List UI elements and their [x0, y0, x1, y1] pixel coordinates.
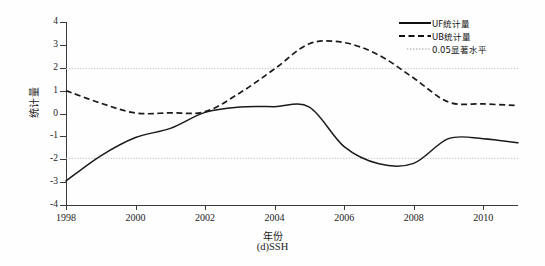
- x-axis-line: [66, 205, 518, 206]
- figure-caption: (d)SSH: [0, 241, 545, 252]
- legend-label-significance: 0.05显著水平: [432, 43, 487, 55]
- legend-item-significance: 0.05显著水平: [398, 43, 538, 55]
- y-tick-label: 3: [32, 40, 58, 50]
- x-tick-label: 2006: [321, 212, 367, 223]
- legend-swatch-solid-icon: [398, 18, 432, 28]
- x-tick-label: 1998: [43, 212, 89, 223]
- x-tick-label: 2002: [182, 212, 228, 223]
- x-tick: [414, 205, 415, 210]
- x-tick: [275, 205, 276, 210]
- legend-swatch-dashed-icon: [398, 31, 432, 41]
- y-tick-label: -2: [32, 154, 58, 164]
- legend-swatch-dotted-icon: [398, 44, 432, 54]
- x-tick-label: 2004: [252, 212, 298, 223]
- chart-legend: UF统计量 UB统计量 0.05显著水平: [398, 17, 538, 56]
- chart-figure: -4-3-2-101234 19982000200220042006200820…: [0, 0, 545, 266]
- x-tick-label: 2008: [391, 212, 437, 223]
- x-tick-label: 2000: [113, 212, 159, 223]
- legend-label-ub: UB统计量: [432, 30, 471, 42]
- x-tick: [205, 205, 206, 210]
- legend-item-ub: UB统计量: [398, 30, 538, 42]
- y-tick-label: -3: [32, 177, 58, 187]
- x-tick: [66, 205, 67, 210]
- legend-item-uf: UF统计量: [398, 17, 538, 29]
- x-tick: [483, 205, 484, 210]
- x-tick-label: 2010: [460, 212, 506, 223]
- legend-label-uf: UF统计量: [432, 17, 470, 29]
- x-tick: [344, 205, 345, 210]
- series-line-uf: [66, 104, 518, 181]
- y-tick-label: 4: [32, 17, 58, 27]
- y-axis-title: 统计量: [26, 58, 41, 148]
- y-tick-label: -4: [32, 200, 58, 210]
- x-tick: [136, 205, 137, 210]
